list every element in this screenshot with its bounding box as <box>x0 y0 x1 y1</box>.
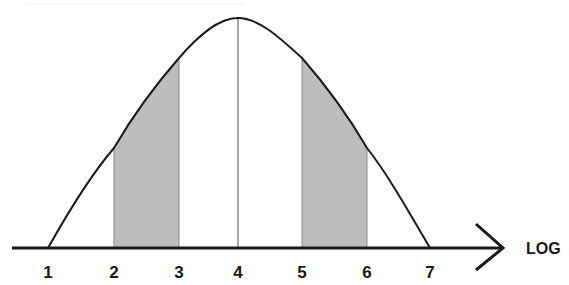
tick-label-6: 6 <box>362 263 371 282</box>
tick-label-5: 5 <box>297 263 306 282</box>
tick-label-1: 1 <box>43 263 52 282</box>
tick-label-3: 3 <box>174 263 183 282</box>
bell-curve-diagram: 1 2 3 4 5 6 7 LOG <box>0 0 569 285</box>
bell-curve <box>48 18 430 248</box>
tick-label-4: 4 <box>233 263 243 282</box>
tick-label-7: 7 <box>425 263 434 282</box>
axis-label: LOG <box>526 240 561 257</box>
shaded-region-2-3 <box>114 58 179 248</box>
shaded-region-5-6 <box>302 58 367 248</box>
tick-label-2: 2 <box>109 263 118 282</box>
